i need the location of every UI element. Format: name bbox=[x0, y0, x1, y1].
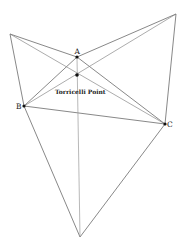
edge-topright-C bbox=[165, 14, 176, 124]
point-B bbox=[22, 104, 25, 107]
edge-left-B bbox=[10, 34, 24, 106]
side-BC bbox=[24, 106, 165, 124]
cevian-A-bottom bbox=[77, 57, 80, 237]
edge-bottom-B bbox=[24, 106, 80, 237]
label-A: A bbox=[74, 47, 81, 56]
edge-topright-A bbox=[77, 14, 176, 57]
construction-lines bbox=[10, 14, 176, 237]
label-torricelli-point: Torricelli Point bbox=[55, 88, 106, 95]
side-AB bbox=[24, 57, 77, 106]
cevian-left-C bbox=[10, 34, 165, 124]
label-B: B bbox=[16, 102, 22, 111]
torricelli-diagram: A B C Torricelli Point bbox=[0, 0, 187, 249]
edge-bottom-C bbox=[80, 124, 165, 237]
label-C: C bbox=[167, 120, 173, 129]
point-torricelli bbox=[75, 73, 79, 77]
